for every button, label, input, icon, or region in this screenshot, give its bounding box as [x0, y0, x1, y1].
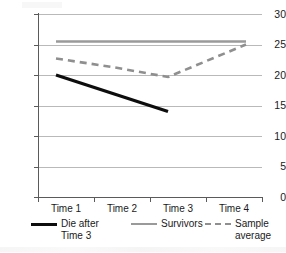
scan-artifact: [22, 2, 62, 8]
y-tick-label: 20: [260, 70, 286, 81]
scan-artifact-bottom: [0, 247, 286, 252]
x-tick-label-time-3: Time 3: [150, 203, 206, 215]
y-tick-label: 5: [260, 161, 286, 172]
legend-label: Survivors: [161, 218, 203, 230]
y-tick-label: 0: [260, 192, 286, 203]
y-tick-label: 15: [260, 100, 286, 111]
chart-legend: Die after Time 3 Survivors Sample averag…: [0, 218, 286, 248]
solid-thick-line-icon: [31, 218, 57, 230]
legend-item-sample-average: Sample average: [205, 218, 271, 242]
series-layer: [38, 14, 262, 197]
x-tick-label-time-2: Time 2: [94, 203, 150, 215]
x-tick-label-time-4: Time 4: [206, 203, 262, 215]
legend-label: Die after Time 3: [61, 218, 99, 242]
series-sample-average: [56, 45, 246, 78]
x-tick-label-time-1: Time 1: [38, 203, 94, 215]
line-chart: 30 25 20 15 10 5 0: [0, 0, 286, 253]
dashed-line-icon: [205, 218, 231, 230]
y-tick-label: 25: [260, 39, 286, 50]
series-die-after-time3: [56, 75, 168, 112]
y-tick-label: 10: [260, 131, 286, 142]
legend-item-survivors: Survivors: [131, 218, 203, 230]
legend-label: Sample average: [235, 218, 271, 242]
solid-thin-line-icon: [131, 218, 157, 230]
y-tick-label: 30: [260, 9, 286, 20]
legend-item-die-after-time3: Die after Time 3: [31, 218, 99, 242]
